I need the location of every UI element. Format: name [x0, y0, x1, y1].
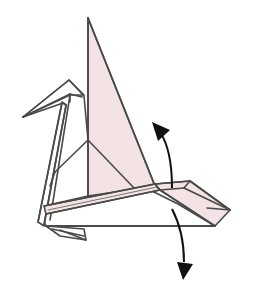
fold-up-arrow-icon: [152, 122, 172, 188]
origami-diagram: Origami crane folding step: [0, 0, 258, 283]
crane-wing: [88, 18, 155, 196]
crane-illustration: [0, 0, 258, 283]
